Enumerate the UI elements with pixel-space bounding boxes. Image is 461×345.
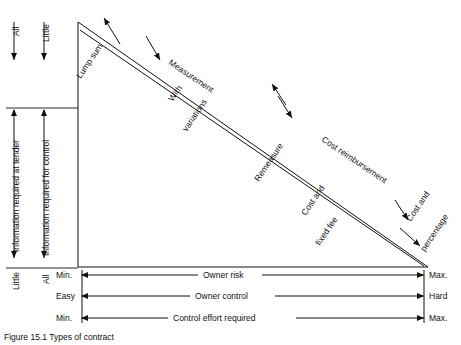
axis-label-little-bottom: Little <box>12 272 21 290</box>
scale-owner-control-label: Owner control <box>195 292 248 301</box>
scale-owner-control-left: Easy <box>56 292 75 301</box>
axis-label-all-bottom: All <box>42 275 51 284</box>
hypotenuse-arrows <box>104 18 420 246</box>
scale-owner-risk-label: Owner risk <box>203 271 244 280</box>
figure-caption: Figure 15.1 Types of contract <box>4 332 114 342</box>
axis-label-info-tender: Information required at tender <box>12 140 21 252</box>
axis-label-all-top: All <box>12 27 21 36</box>
scale-owner-risk-right: Max. <box>429 271 447 280</box>
axis-label-info-control: Information required for control <box>42 140 51 256</box>
diagram-stage: All Little Information required at tende… <box>0 0 461 345</box>
axis-label-little-top: Little <box>42 24 51 42</box>
scale-owner-control-right: Hard <box>429 292 447 301</box>
scale-control-effort-left: Min. <box>56 314 72 323</box>
triangle-shape <box>78 22 428 267</box>
scale-owner-risk-left: Min. <box>56 271 72 280</box>
scale-control-effort-right: Max. <box>429 314 447 323</box>
scale-control-effort-label: Control effort required <box>173 314 256 323</box>
